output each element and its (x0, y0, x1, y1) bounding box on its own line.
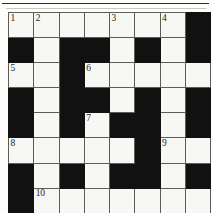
crossword-cell[interactable] (160, 38, 185, 63)
top-horizontal-rule-secondary (6, 8, 206, 9)
crossword-cell[interactable]: 9 (160, 138, 185, 163)
page-canvas: 12345678910 (0, 0, 213, 213)
crossword-cell[interactable]: 4 (160, 13, 185, 38)
crossword-cell[interactable] (84, 163, 109, 188)
crossword-cell[interactable] (59, 188, 84, 213)
crossword-cell[interactable] (34, 63, 59, 88)
cell-number: 3 (112, 13, 116, 24)
crossword-block-cell (59, 63, 84, 88)
crossword-cell[interactable]: 10 (34, 188, 59, 213)
crossword-block-cell (59, 88, 84, 113)
crossword-cell[interactable]: 2 (34, 13, 59, 38)
crossword-block-cell (135, 113, 160, 138)
crossword-block-cell (185, 88, 210, 113)
crossword-block-cell (59, 163, 84, 188)
cell-number: 5 (11, 63, 15, 74)
crossword-block-cell (110, 113, 135, 138)
crossword-cell[interactable] (34, 138, 59, 163)
crossword-cell[interactable] (84, 138, 109, 163)
crossword-block-cell (135, 163, 160, 188)
crossword-cell[interactable] (160, 88, 185, 113)
crossword-row: 10 (9, 188, 211, 213)
crossword-row: 56 (9, 63, 211, 88)
crossword-cell[interactable] (135, 13, 160, 38)
crossword-cell[interactable]: 8 (9, 138, 34, 163)
crossword-cell[interactable] (59, 13, 84, 38)
crossword-row (9, 38, 211, 63)
crossword-cell[interactable]: 6 (84, 63, 109, 88)
crossword-cell[interactable]: 7 (84, 113, 109, 138)
crossword-block-cell (185, 163, 210, 188)
crossword-row: 1234 (9, 13, 211, 38)
crossword-cell[interactable] (160, 63, 185, 88)
crossword-cell[interactable]: 3 (110, 13, 135, 38)
crossword-cell[interactable] (84, 13, 109, 38)
cell-number: 9 (162, 138, 166, 149)
crossword-block-cell (9, 88, 34, 113)
crossword-cell[interactable] (135, 188, 160, 213)
cell-number: 4 (162, 13, 166, 24)
crossword-cell[interactable]: 1 (9, 13, 34, 38)
crossword-grid-container: 12345678910 (8, 12, 202, 205)
crossword-row (9, 163, 211, 188)
crossword-block-cell (9, 163, 34, 188)
crossword-block-cell (9, 113, 34, 138)
crossword-cell[interactable]: 5 (9, 63, 34, 88)
crossword-block-cell (9, 38, 34, 63)
crossword-cell[interactable] (34, 88, 59, 113)
crossword-cell[interactable] (84, 188, 109, 213)
crossword-cell[interactable] (185, 138, 210, 163)
crossword-cell[interactable] (185, 63, 210, 88)
crossword-row (9, 88, 211, 113)
crossword-cell[interactable] (160, 188, 185, 213)
cell-number: 1 (11, 13, 15, 24)
crossword-cell[interactable] (110, 88, 135, 113)
crossword-cell[interactable] (135, 63, 160, 88)
crossword-block-cell (84, 88, 109, 113)
crossword-cell[interactable] (160, 113, 185, 138)
crossword-cell[interactable] (110, 38, 135, 63)
crossword-block-cell (185, 38, 210, 63)
crossword-cell[interactable] (110, 188, 135, 213)
crossword-cell[interactable] (160, 163, 185, 188)
crossword-block-cell (135, 138, 160, 163)
crossword-grid[interactable]: 12345678910 (8, 12, 211, 213)
cell-number: 7 (86, 113, 90, 124)
crossword-block-cell (185, 113, 210, 138)
crossword-cell[interactable] (34, 113, 59, 138)
cell-number: 10 (36, 188, 45, 199)
crossword-cell[interactable] (110, 63, 135, 88)
crossword-cell[interactable] (110, 138, 135, 163)
crossword-cell[interactable] (34, 163, 59, 188)
crossword-block-cell (9, 188, 34, 213)
crossword-block-cell (185, 13, 210, 38)
crossword-row: 89 (9, 138, 211, 163)
crossword-block-cell (135, 88, 160, 113)
cell-number: 2 (36, 13, 40, 24)
cell-number: 6 (86, 63, 90, 74)
crossword-cell[interactable] (59, 138, 84, 163)
crossword-row: 7 (9, 113, 211, 138)
crossword-block-cell (59, 113, 84, 138)
crossword-block-cell (84, 38, 109, 63)
crossword-block-cell (135, 38, 160, 63)
cell-number: 8 (11, 138, 15, 149)
crossword-cell[interactable] (185, 188, 210, 213)
top-horizontal-rule (2, 3, 209, 4)
crossword-block-cell (110, 163, 135, 188)
crossword-cell[interactable] (34, 38, 59, 63)
crossword-block-cell (59, 38, 84, 63)
